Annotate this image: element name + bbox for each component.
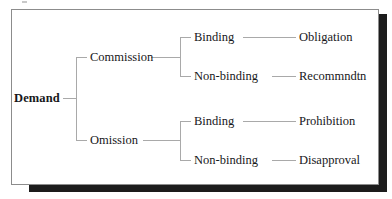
diagram-canvas: Demand Commission Omission Binding Non-b… — [0, 0, 392, 199]
connector-level1-arm-omission — [76, 140, 87, 141]
connector-commission-bracket — [180, 37, 181, 76]
connector-level1-bracket — [76, 57, 77, 140]
connector-commission-arm-binding — [180, 37, 191, 38]
connector-omission-bracket — [180, 121, 181, 160]
node-nonbinding-commission: Non-binding — [194, 70, 258, 83]
connector-omission-stem — [143, 140, 180, 141]
node-prohibition: Prohibition — [299, 115, 355, 128]
connector-commission-stem — [151, 57, 180, 58]
node-obligation: Obligation — [299, 31, 352, 44]
node-binding-commission: Binding — [194, 31, 234, 44]
connector-nonbinding-to-recommndtn — [272, 76, 296, 77]
connector-omission-arm-binding — [180, 121, 191, 122]
connector-binding-to-obligation — [243, 37, 296, 38]
connector-omission-arm-nonbinding — [180, 160, 191, 161]
node-disapproval: Disapproval — [299, 154, 360, 167]
connector-root-stem — [63, 98, 76, 99]
node-omission: Omission — [90, 134, 138, 147]
connector-commission-arm-nonbinding — [180, 76, 191, 77]
figure-root: Demand Commission Omission Binding Non-b… — [0, 0, 392, 199]
connector-nonbinding-to-disapproval — [272, 160, 296, 161]
node-commission: Commission — [90, 51, 153, 64]
connector-binding-to-prohibition — [243, 121, 296, 122]
node-nonbinding-omission: Non-binding — [194, 154, 258, 167]
node-demand: Demand — [14, 92, 60, 105]
connector-level1-arm-commission — [76, 57, 87, 58]
node-binding-omission: Binding — [194, 115, 234, 128]
node-recommndtn: Recommndtn — [299, 70, 366, 83]
